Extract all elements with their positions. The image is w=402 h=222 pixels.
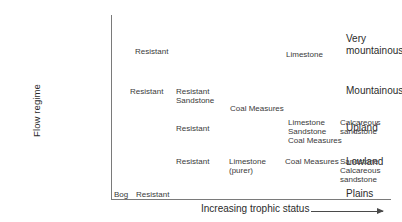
entry-mountainous-resistant: Resistant (130, 87, 163, 96)
entry-plains-bog: Bog (114, 190, 128, 199)
entry-lowland-resistant: Resistant (176, 157, 209, 166)
x-axis-title: Increasing trophic status (201, 203, 309, 214)
right-arrow-icon (311, 211, 383, 212)
entry-very-mountainous-resistant: Resistant (135, 47, 168, 56)
entry-lowland-limestone-purer: Limestone (purer) (229, 157, 266, 175)
entry-very-mountainous-limestone: Limestone (286, 50, 323, 59)
entry-lowland-coal-measures: Coal Measures (285, 157, 339, 166)
entry-plains-resistant: Resistant (136, 190, 169, 199)
entry-mountainous-resistant-sandstone: Resistant Sandstone (176, 87, 214, 105)
entry-upland-limestone-sandstone-coal-measures: Limestone Sandstone Coal Measures (288, 118, 342, 146)
entry-upland-calcareous-sandstone: Calcareous sandstone (340, 118, 380, 136)
y-axis-title: Flow regime (31, 61, 42, 161)
y-axis-category-mountainous: Mountainous (298, 85, 402, 97)
entry-mountainous-coal-measures: Coal Measures (230, 104, 284, 113)
entry-upland-resistant: Resistant (176, 124, 209, 133)
flow-regime-trophic-status-diagram: Flow regime Very mountainous Mountainous… (0, 0, 402, 222)
y-axis-line (111, 15, 112, 200)
y-axis-category-plains: Plains (298, 188, 402, 200)
entry-lowland-sandstone-calcareous-sandstone: Sandstone Calcareous sandstone (340, 157, 380, 185)
